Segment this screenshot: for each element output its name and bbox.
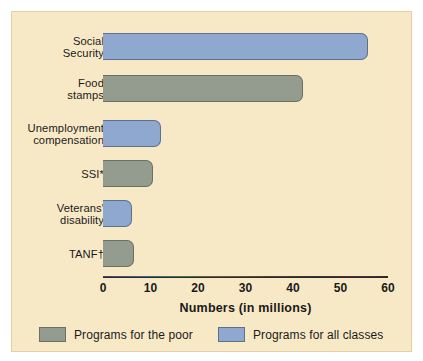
- x-tick-40: 40: [286, 281, 299, 295]
- legend-item-poor: Programs for the poor: [39, 327, 193, 342]
- bar-food-stamps: [103, 75, 303, 102]
- bar-unemployment-compensation: [103, 120, 161, 147]
- bar-ssi: [103, 160, 153, 187]
- bar-tanf: [103, 240, 134, 267]
- legend-label-all-classes: Programs for all classes: [253, 328, 383, 342]
- chart-plot-area: Social Security Food stamps Unemployment…: [11, 11, 412, 352]
- category-label: Social Security: [0, 34, 104, 59]
- x-tick-0: 0: [100, 281, 107, 295]
- category-label: SSI*: [0, 167, 104, 179]
- bar-veterans-disability: [103, 200, 132, 227]
- bar-row: TANF†: [11, 240, 412, 267]
- bar-social-security: [103, 33, 368, 60]
- x-tick-60: 60: [381, 281, 394, 295]
- x-tick-20: 20: [191, 281, 204, 295]
- x-tick-50: 50: [334, 281, 347, 295]
- legend-item-all-classes: Programs for all classes: [218, 327, 383, 342]
- bar-row: Unemployment compensation: [11, 120, 412, 147]
- legend-swatch-all-classes: [218, 327, 245, 342]
- bar-row: SSI*: [11, 160, 412, 187]
- category-label: Food stamps: [0, 76, 104, 101]
- bar-row: Social Security: [11, 33, 412, 60]
- legend-swatch-poor: [39, 327, 66, 342]
- x-axis-title: Numbers (in millions): [103, 301, 388, 315]
- bar-row: Veterans' disability: [11, 200, 412, 227]
- legend-label-poor: Programs for the poor: [74, 328, 193, 342]
- bar-row: Food stamps: [11, 75, 412, 102]
- category-label: TANF†: [0, 247, 104, 259]
- x-axis-line: [103, 276, 388, 278]
- category-label: Unemployment compensation: [0, 121, 104, 146]
- x-tick-30: 30: [239, 281, 252, 295]
- x-tick-10: 10: [144, 281, 157, 295]
- chart-legend: Programs for the poor Programs for all c…: [39, 327, 399, 349]
- category-label: Veterans' disability: [0, 201, 104, 226]
- chart-figure: Social Security Food stamps Unemployment…: [11, 11, 412, 352]
